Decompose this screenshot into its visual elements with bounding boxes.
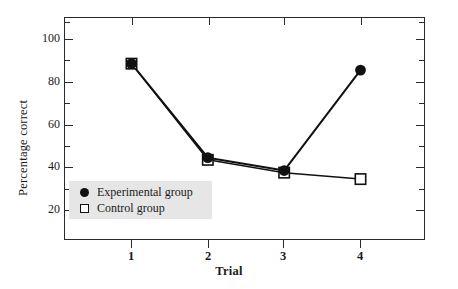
chart-legend: Experimental group Control group: [69, 181, 212, 219]
filled-circle-icon: [77, 185, 91, 199]
legend-label-control: Control group: [97, 201, 165, 216]
legend-item-experimental: Experimental group: [77, 184, 206, 200]
x-tick-label-3: 3: [268, 249, 298, 264]
x-tick-label-4: 4: [345, 249, 375, 264]
legend-item-control: Control group: [77, 200, 206, 216]
x-axis-title: Trial: [0, 264, 458, 279]
x-tick-label-2: 2: [193, 249, 223, 264]
open-square-icon: [77, 201, 91, 215]
x-axis-tick-labels: 1 2 3 4: [0, 0, 458, 289]
x-tick-label-1: 1: [116, 249, 146, 264]
chart-figure: Percentage correct 100 80 60 40 20: [0, 0, 458, 289]
legend-label-experimental: Experimental group: [97, 185, 193, 200]
